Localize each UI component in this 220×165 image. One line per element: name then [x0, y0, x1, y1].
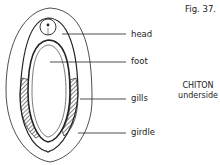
foot-outline	[28, 40, 70, 142]
label-foot: foot	[131, 56, 148, 66]
figure-title-main: CHITON	[176, 81, 220, 91]
label-head: head	[131, 29, 152, 39]
mouth-dot	[47, 24, 50, 27]
figure-number: Fig. 37.	[185, 4, 216, 14]
label-gills: gills	[131, 93, 148, 103]
figure-title-sub: underside	[176, 91, 220, 101]
label-girdle: girdle	[131, 127, 155, 137]
figure-title: CHITON underside	[176, 81, 220, 101]
